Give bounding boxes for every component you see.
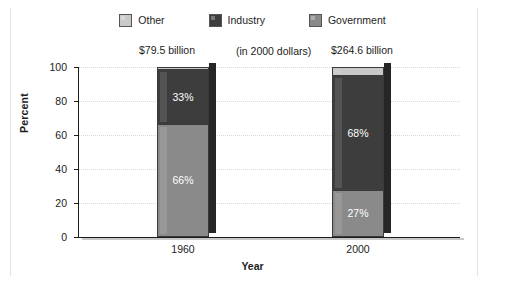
bar-segment-label: 27% xyxy=(347,208,368,219)
figure-border-right xyxy=(477,8,478,276)
legend-swatch-government xyxy=(309,14,322,27)
segment-highlight xyxy=(160,127,167,234)
legend-label-other: Other xyxy=(138,15,164,26)
y-axis-line xyxy=(78,67,79,237)
segment-highlight xyxy=(160,72,167,122)
plot-area: 020406080100 33%66%68%27% xyxy=(78,67,460,237)
bar-side-shadow xyxy=(384,63,391,233)
y-axis-tick-label: 100 xyxy=(49,61,67,73)
bar-stack: 68%27% xyxy=(332,67,384,237)
legend-swatch-industry xyxy=(209,14,222,27)
bar-segment-label: 33% xyxy=(172,92,193,103)
y-axis-tick: 40 xyxy=(74,169,78,170)
segment-highlight xyxy=(335,193,342,234)
legend-label-industry: Industry xyxy=(228,15,265,26)
legend-swatch-other xyxy=(119,14,132,27)
bar-side-shadow xyxy=(209,63,216,233)
y-axis-title: Percent xyxy=(18,93,30,133)
y-axis-tick: 100 xyxy=(74,67,78,68)
x-axis-tick-label-1960: 1960 xyxy=(171,243,194,255)
y-axis-tick-label: 0 xyxy=(61,231,67,243)
x-axis-tick-label-2000: 2000 xyxy=(346,243,369,255)
y-axis-tick: 20 xyxy=(74,203,78,204)
segment-highlight xyxy=(335,78,342,187)
bar-segment-government[interactable]: 27% xyxy=(333,191,383,236)
bar-1960[interactable]: 33%66% xyxy=(157,67,209,237)
legend-item-other: Other xyxy=(119,14,164,27)
legend-item-government: Government xyxy=(309,14,386,27)
segment-highlight xyxy=(335,70,342,73)
annotation-dollar-basis: (in 2000 dollars) xyxy=(236,46,311,57)
bar-segment-industry[interactable]: 68% xyxy=(333,76,383,190)
bar-stack: 33%66% xyxy=(157,67,209,237)
gridline xyxy=(79,203,460,205)
figure-border-left xyxy=(10,8,11,276)
gridline xyxy=(79,67,460,69)
gridline xyxy=(79,135,460,137)
chart-legend: Other Industry Government xyxy=(0,14,505,27)
annotation-2000-total: $264.6 billion xyxy=(331,45,393,56)
bar-segment-other[interactable] xyxy=(333,68,383,76)
bar-segment-government[interactable]: 66% xyxy=(158,125,208,236)
gridline xyxy=(79,169,460,171)
y-axis-tick: 0 xyxy=(74,237,78,238)
y-axis-tick-label: 60 xyxy=(55,129,67,141)
x-axis-title: Year xyxy=(0,260,505,272)
bar-2000[interactable]: 68%27% xyxy=(332,67,384,237)
y-axis-tick-label: 80 xyxy=(55,95,67,107)
y-axis-tick-label: 20 xyxy=(55,197,67,209)
legend-item-industry: Industry xyxy=(209,14,265,27)
gridline xyxy=(79,101,460,103)
bar-segment-industry[interactable]: 33% xyxy=(158,70,208,125)
bar-segment-label: 66% xyxy=(172,175,193,186)
y-axis-tick: 60 xyxy=(74,135,78,136)
y-axis-tick-label: 40 xyxy=(55,163,67,175)
y-axis-tick: 80 xyxy=(74,101,78,102)
bar-segment-label: 68% xyxy=(347,128,368,139)
x-axis-depth xyxy=(82,238,464,240)
annotation-1960-total: $79.5 billion xyxy=(139,45,195,56)
chart-figure: Other Industry Government $79.5 billion … xyxy=(0,0,505,284)
legend-label-government: Government xyxy=(328,15,386,26)
